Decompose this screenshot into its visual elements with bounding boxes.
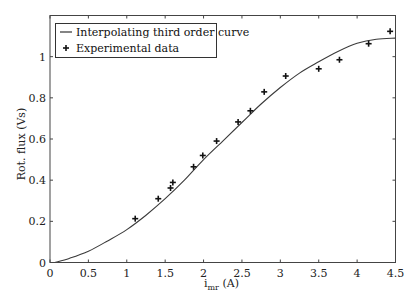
x-tick-label: 3.5: [310, 267, 328, 280]
data-point-plus-icon: [191, 164, 197, 170]
y-tick-label: 0: [39, 257, 46, 270]
data-point-plus-icon: [387, 28, 393, 34]
data-point-plus-icon: [336, 57, 342, 63]
y-tick-label: 0.6: [29, 133, 47, 146]
data-point-plus-icon: [261, 89, 267, 95]
chart: 00.511.522.533.544.5 00.20.40.60.81 Inte…: [0, 0, 419, 303]
y-tick-label: 0.8: [29, 92, 47, 105]
data-point-plus-icon: [170, 179, 176, 185]
y-tick-label: 0.4: [29, 174, 47, 187]
legend: Interpolating third order curve Experime…: [56, 24, 250, 58]
x-tick-label: 4.5: [387, 267, 405, 280]
y-tick-label: 1: [39, 51, 46, 64]
x-tick-label: 1.5: [156, 267, 174, 280]
y-axis-label: Rot. flux (Vs): [15, 108, 28, 181]
x-tick-label: 1: [123, 267, 130, 280]
x-tick-label: 0.5: [80, 267, 98, 280]
y-tick-label: 0.2: [29, 215, 47, 228]
data-point-plus-icon: [214, 138, 220, 144]
data-point-plus-icon: [316, 66, 322, 72]
x-tick-label: 3: [277, 267, 284, 280]
data-point-plus-icon: [168, 185, 174, 191]
legend-label-curve: Interpolating third order curve: [76, 26, 249, 39]
data-point-plus-icon: [132, 216, 138, 222]
data-point-plus-icon: [155, 196, 161, 202]
legend-label-data: Experimental data: [76, 42, 180, 55]
x-axis-label: imr (A): [204, 277, 239, 292]
x-axis-label-sub: mr: [208, 283, 220, 292]
data-point-plus-icon: [283, 73, 289, 79]
x-axis-label-unit: (A): [219, 277, 239, 290]
x-tick-label: 0: [47, 267, 54, 280]
interpolating-curve: [55, 38, 396, 262]
x-tick-label: 4: [354, 267, 361, 280]
y-axis-ticks: 00.20.40.60.81: [29, 51, 396, 270]
data-point-plus-icon: [366, 41, 372, 47]
